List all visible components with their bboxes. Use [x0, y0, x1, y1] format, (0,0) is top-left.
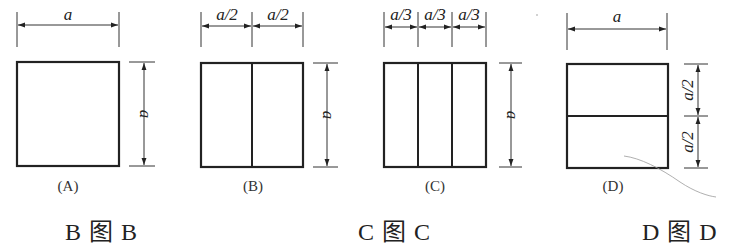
square-c [384, 63, 486, 167]
panel-c: a/3 a/3 a/3 a (C) [384, 5, 538, 195]
top-dim-label: a [613, 7, 622, 26]
side-dim-label-1: a/2 [678, 79, 697, 101]
top-dim-label-3: a/3 [458, 5, 480, 24]
side-dim-label: a [503, 111, 522, 120]
side-dim-label: a [136, 110, 155, 119]
top-dim-label-2: a/3 [424, 5, 446, 24]
stray-pen-mark [624, 156, 716, 197]
answer-option-c[interactable]: C 图 C [358, 212, 431, 247]
top-dim-label: a [64, 5, 73, 24]
caption-b: (B) [243, 178, 263, 195]
stray-dot [536, 14, 538, 16]
caption-c: (C) [425, 178, 445, 195]
top-dim-label-1: a/3 [390, 5, 412, 24]
answer-option-d[interactable]: D 图 D [642, 212, 718, 247]
panel-a: a a (A) [17, 5, 155, 195]
caption-a: (A) [58, 178, 79, 195]
panel-d: a a/2 a/2 (D) [567, 7, 716, 197]
side-dim-label: a [319, 111, 338, 120]
caption-d: (D) [603, 178, 624, 195]
answer-option-b[interactable]: B 图 B [65, 212, 138, 247]
top-dim-label-1: a/2 [216, 5, 238, 24]
square-a [17, 62, 119, 166]
top-dim-label-2: a/2 [267, 5, 289, 24]
panel-b: a/2 a/2 a (B) [201, 5, 338, 195]
side-dim-label-2: a/2 [678, 131, 697, 153]
